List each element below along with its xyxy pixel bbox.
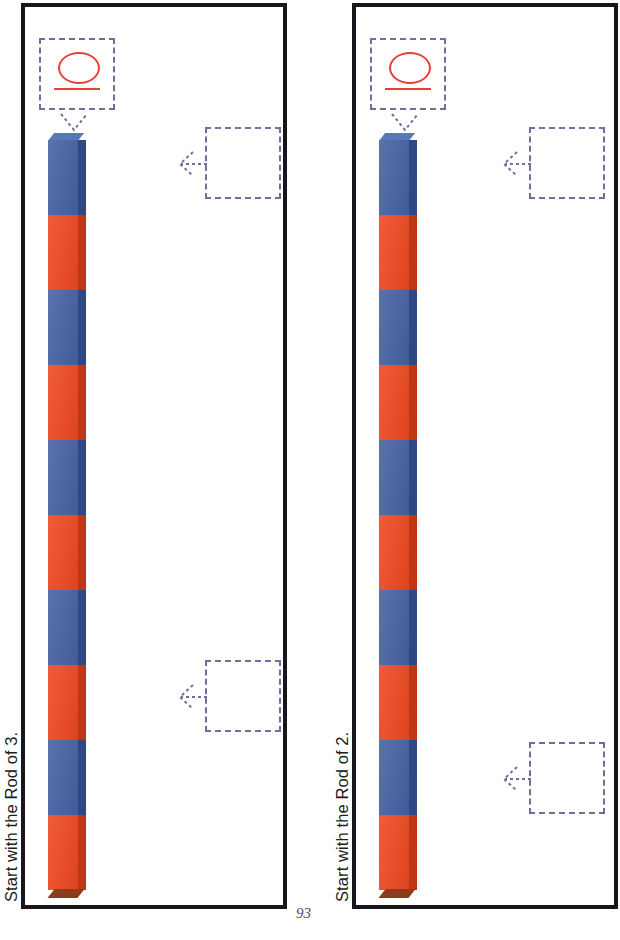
rod-segment <box>379 590 409 665</box>
rod-segment <box>48 290 78 365</box>
rod-bottom-face <box>48 889 86 898</box>
page-number: 93 <box>296 905 311 922</box>
answer-box-empty[interactable] <box>529 742 605 814</box>
rod-segment <box>379 140 409 215</box>
cuisenaire-rod-panel-2 <box>379 140 417 890</box>
rod-bottom-face <box>379 889 417 898</box>
panel-1-caption: Start with the Rod of 3. <box>2 732 21 902</box>
zero-digit-icon <box>389 52 431 84</box>
one-digit-icon <box>54 88 100 90</box>
rod-segment <box>379 440 409 515</box>
handwritten-ten-glyph <box>381 52 435 96</box>
rod-segment <box>379 290 409 365</box>
rod-segment <box>48 365 78 440</box>
rod-front-face <box>379 140 409 890</box>
one-digit-icon <box>385 88 431 90</box>
rod-side-face <box>409 140 417 890</box>
rod-segment <box>48 140 78 215</box>
arrow-left-icon <box>175 147 211 181</box>
rod-segment <box>48 215 78 290</box>
answer-box-filled[interactable] <box>370 38 446 110</box>
answer-box-empty[interactable] <box>205 660 281 732</box>
answer-box-filled[interactable] <box>39 38 115 110</box>
rod-segment <box>48 515 78 590</box>
cuisenaire-rod-panel-1 <box>48 140 86 890</box>
rod-segment <box>379 815 409 890</box>
rod-segment <box>379 665 409 740</box>
arrow-left-icon <box>175 680 211 714</box>
rod-segment <box>48 665 78 740</box>
rod-segment <box>48 815 78 890</box>
zero-digit-icon <box>58 52 100 84</box>
rod-segment <box>379 515 409 590</box>
rod-segment <box>48 590 78 665</box>
rod-segment <box>48 440 78 515</box>
arrow-left-icon <box>499 762 535 796</box>
rod-segment <box>48 740 78 815</box>
arrow-left-icon <box>499 147 535 181</box>
answer-box-empty[interactable] <box>529 127 605 199</box>
panel-2-caption: Start with the Rod of 2. <box>333 732 352 902</box>
rod-segment <box>379 365 409 440</box>
rod-side-face <box>78 140 86 890</box>
rod-segment <box>379 740 409 815</box>
handwritten-ten-glyph <box>50 52 104 96</box>
rod-segment <box>379 215 409 290</box>
rod-front-face <box>48 140 78 890</box>
answer-box-empty[interactable] <box>205 127 281 199</box>
